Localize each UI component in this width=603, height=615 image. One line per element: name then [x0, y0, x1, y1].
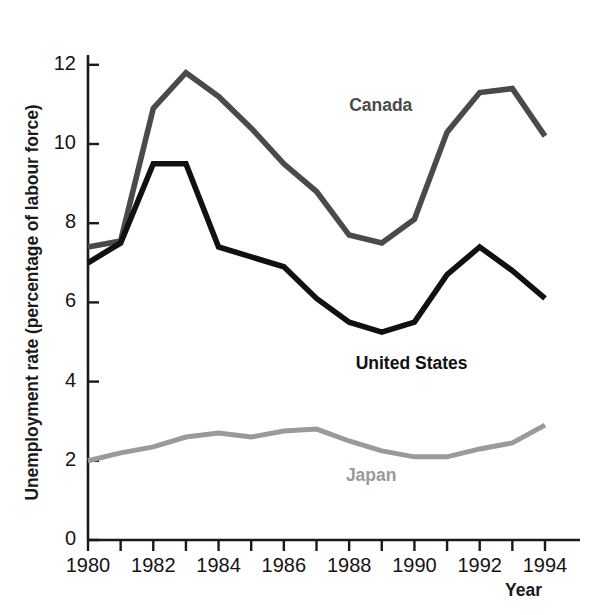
y-tick-label: 4	[30, 369, 76, 392]
axes	[88, 55, 580, 551]
series-line-canada	[88, 73, 545, 247]
data-series	[88, 73, 545, 461]
plot-area	[0, 0, 603, 615]
series-label-canada: Canada	[349, 95, 412, 116]
x-tick-label: 1984	[184, 554, 254, 577]
x-tick-label: 1994	[510, 554, 580, 577]
y-tick-label: 6	[30, 289, 76, 312]
x-tick-label: 1986	[249, 554, 319, 577]
series-line-japan	[88, 425, 545, 461]
x-tick-label: 1990	[379, 554, 449, 577]
series-label-japan: Japan	[346, 465, 397, 486]
y-tick-label: 10	[30, 131, 76, 154]
y-tick-label: 0	[30, 527, 76, 550]
x-tick-label: 1980	[53, 554, 123, 577]
y-tick-label: 2	[30, 448, 76, 471]
unemployment-rate-line-chart: Unemployment rate (percentage of labour …	[0, 0, 603, 615]
series-label-united-states: United States	[356, 353, 468, 374]
x-tick-label: 1988	[314, 554, 384, 577]
x-tick-label: 1982	[118, 554, 188, 577]
y-tick-label: 8	[30, 210, 76, 233]
y-tick-label: 12	[30, 52, 76, 75]
x-tick-label: 1992	[445, 554, 515, 577]
